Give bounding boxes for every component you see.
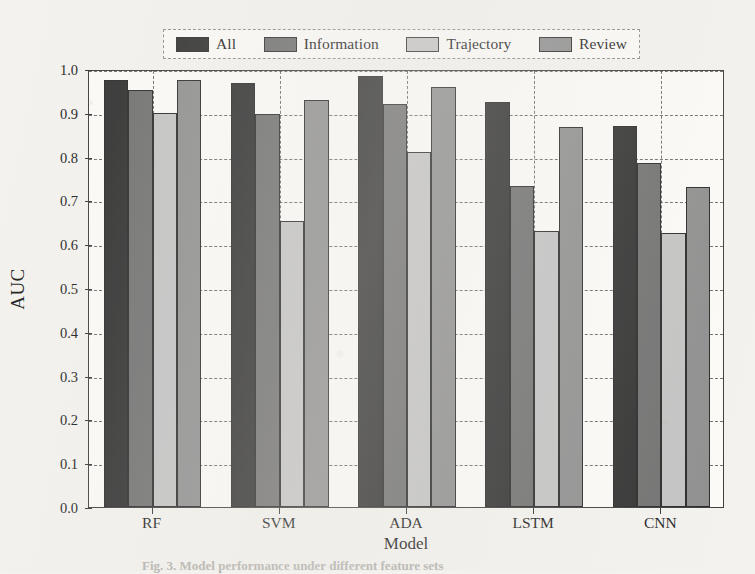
x-tick-label-cnn: CNN: [644, 514, 677, 532]
y-tick-mark: [85, 201, 92, 202]
bar-svm-trajectory: [280, 221, 304, 507]
bar-ada-information: [383, 104, 407, 507]
legend-swatch-all: [176, 37, 209, 52]
y-tick-mark: [85, 245, 92, 246]
bar-rf-information: [128, 90, 152, 507]
bar-cnn-all: [613, 126, 637, 507]
y-tick-label: 1.0: [44, 62, 78, 79]
x-tick-label-svm: SVM: [262, 514, 296, 532]
bar-ada-all: [358, 76, 382, 507]
bar-svm-review: [304, 100, 328, 507]
x-tick-label-ada: ADA: [389, 514, 423, 532]
bar-svm-all: [231, 83, 255, 507]
x-tick-label-rf: RF: [142, 514, 161, 532]
bar-cnn-information: [637, 163, 661, 507]
legend-label-trajectory: Trajectory: [446, 36, 511, 52]
legend-entry-all: All: [176, 36, 236, 52]
y-tick-mark: [85, 464, 92, 465]
bar-rf-all: [104, 80, 128, 507]
y-tick-label: 0.9: [44, 105, 78, 122]
y-tick-label: 0.6: [44, 237, 78, 254]
y-tick-label: 0.1: [44, 456, 78, 473]
x-axis-label: Model: [384, 534, 428, 554]
bar-lstm-all: [485, 102, 509, 507]
figure-caption: Fig. 3. Model performance under differen…: [142, 558, 622, 574]
legend-entry-review: Review: [539, 36, 627, 52]
y-axis-label: AUC: [7, 268, 29, 309]
x-tick-label-lstm: LSTM: [513, 514, 554, 532]
legend-entry-trajectory: Trajectory: [406, 36, 511, 52]
y-tick-mark: [85, 333, 92, 334]
y-tick-label: 0.2: [44, 412, 78, 429]
bar-cnn-trajectory: [661, 233, 685, 507]
y-tick-mark: [85, 289, 92, 290]
bar-lstm-review: [559, 127, 583, 507]
chart-legend: All Information Trajectory Review: [163, 29, 640, 59]
legend-label-information: Information: [304, 36, 379, 52]
y-tick-mark: [85, 420, 92, 421]
legend-swatch-review: [539, 37, 572, 52]
y-tick-mark: [85, 158, 92, 159]
y-tick-mark: [85, 70, 92, 71]
bar-ada-trajectory: [407, 152, 431, 507]
y-tick-mark: [85, 377, 92, 378]
bar-lstm-information: [510, 186, 534, 507]
legend-swatch-trajectory: [406, 37, 439, 52]
bars-layer: [89, 71, 723, 507]
y-tick-label: 0.5: [44, 281, 78, 298]
legend-label-all: All: [216, 36, 236, 52]
y-tick-label: 0.7: [44, 193, 78, 210]
bar-rf-review: [177, 80, 201, 507]
y-tick-label: 0.8: [44, 149, 78, 166]
bar-svm-information: [255, 114, 279, 507]
y-tick-label: 0.0: [44, 500, 78, 517]
legend-swatch-information: [264, 37, 297, 52]
plot-area: [88, 70, 724, 508]
bar-rf-trajectory: [153, 113, 177, 507]
bar-ada-review: [431, 87, 455, 507]
legend-entry-information: Information: [264, 36, 379, 52]
plot-inner: [89, 71, 723, 507]
bar-cnn-review: [686, 187, 710, 507]
y-tick-mark: [85, 508, 92, 509]
y-tick-label: 0.4: [44, 324, 78, 341]
bar-lstm-trajectory: [534, 231, 558, 507]
y-tick-label: 0.3: [44, 368, 78, 385]
legend-label-review: Review: [579, 36, 627, 52]
y-tick-mark: [85, 114, 92, 115]
